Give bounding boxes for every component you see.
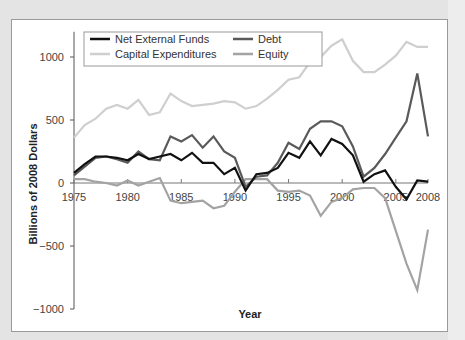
x-tick-label: 2008	[416, 191, 440, 203]
x-axis-label: Year	[238, 308, 262, 320]
x-tick-label: 1975	[62, 191, 86, 203]
legend: Net External FundsDebtCapital Expenditur…	[84, 32, 322, 66]
series-debt	[74, 73, 428, 186]
series-lines	[74, 39, 428, 290]
legend-label: Capital Expenditures	[115, 48, 217, 60]
legend-label: Debt	[258, 33, 281, 45]
y-tick-label: 1000	[40, 51, 64, 63]
legend-label: Net External Funds	[115, 33, 210, 45]
y-tick-label: 0	[58, 177, 64, 189]
y-tick-label: −500	[39, 240, 64, 252]
y-axis-label: Billions of 2008 Dollars	[27, 123, 39, 244]
y-tick-label: 500	[46, 114, 64, 126]
x-tick-label: 1980	[115, 191, 139, 203]
legend-label: Equity	[258, 48, 289, 60]
line-chart: 10005000−500−100019751980198519901995200…	[0, 0, 465, 340]
y-tick-label: −1000	[33, 303, 64, 315]
